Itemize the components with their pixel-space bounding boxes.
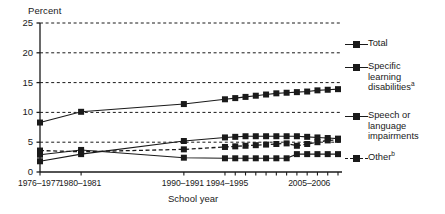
legend-footnote-marker: a	[411, 80, 415, 87]
series-marker-1	[232, 134, 238, 140]
series-marker-2	[181, 155, 187, 161]
y-tick-label: 0	[9, 166, 33, 177]
series-marker-0	[335, 86, 341, 92]
series-marker-3	[243, 143, 249, 149]
series-marker-2	[284, 155, 290, 161]
series-marker-1	[222, 134, 228, 140]
series-marker-1	[37, 158, 43, 164]
series-marker-3	[253, 142, 259, 148]
series-marker-1	[304, 134, 310, 140]
series-marker-1	[263, 133, 269, 139]
chart-figure: Percent 0510152025 1976–19771980–1981199…	[0, 0, 445, 214]
series-marker-1	[294, 133, 300, 139]
series-marker-0	[284, 90, 290, 96]
series-marker-2	[243, 155, 249, 161]
series-marker-0	[222, 96, 228, 102]
legend-item-3: Otherb	[345, 152, 395, 164]
legend-key-swatch	[345, 39, 368, 50]
series-marker-3	[304, 141, 310, 147]
series-marker-0	[253, 93, 259, 99]
series-marker-0	[181, 101, 187, 107]
x-tick-label: 1990–1991	[162, 178, 204, 188]
y-tick-label: 25	[9, 17, 33, 28]
series-marker-3	[181, 146, 187, 152]
series-marker-0	[243, 94, 249, 100]
legend-key-swatch	[345, 62, 368, 73]
series-marker-1	[181, 138, 187, 144]
series-marker-2	[335, 151, 341, 157]
series-marker-2	[253, 155, 259, 161]
x-axis-title: School year	[168, 193, 218, 204]
series-marker-3	[284, 140, 290, 146]
legend-item-label: Total	[368, 38, 388, 49]
y-axis-title: Percent	[28, 5, 61, 16]
legend-item-label: Speech or language impairments	[368, 110, 419, 142]
series-marker-2	[294, 151, 300, 157]
series-marker-3	[325, 137, 331, 143]
legend-key-marker	[353, 155, 360, 162]
series-marker-2	[273, 155, 279, 161]
series-marker-0	[314, 87, 320, 93]
series-marker-1	[253, 133, 259, 139]
y-tick-label: 20	[9, 47, 33, 58]
y-tick-label: 15	[9, 77, 33, 88]
series-marker-0	[273, 90, 279, 96]
series-marker-0	[294, 89, 300, 95]
series-marker-3	[263, 142, 269, 148]
series-marker-2	[304, 151, 310, 157]
series-marker-2	[263, 155, 269, 161]
series-marker-3	[273, 141, 279, 147]
series-marker-0	[304, 89, 310, 95]
series-marker-1	[243, 133, 249, 139]
series-marker-1	[284, 133, 290, 139]
series-marker-3	[294, 143, 300, 149]
legend-footnote-marker: b	[391, 150, 395, 157]
series-marker-3	[335, 137, 341, 143]
series-marker-2	[222, 155, 228, 161]
legend-key-marker	[353, 41, 360, 48]
series-marker-2	[325, 151, 331, 157]
legend-key-swatch	[345, 111, 368, 122]
series-marker-2	[314, 151, 320, 157]
legend-item-label: Specific learning disabilitiesa	[368, 61, 415, 93]
series-marker-0	[263, 92, 269, 98]
series-marker-3	[78, 149, 84, 155]
series-marker-2	[232, 155, 238, 161]
legend-key-marker	[353, 64, 360, 71]
legend-item-1: Specific learning disabilitiesa	[345, 61, 415, 93]
series-marker-0	[78, 109, 84, 115]
y-tick-label: 5	[9, 136, 33, 147]
x-tick-label: 2005–2006	[288, 178, 330, 188]
legend-item-0: Total	[345, 38, 388, 50]
series-marker-0	[325, 87, 331, 93]
x-tick-label: 1976–1977	[18, 178, 60, 188]
legend-key-swatch	[345, 153, 368, 164]
y-tick-label: 10	[9, 106, 33, 117]
series-marker-3	[222, 144, 228, 150]
x-tick-label: 1980–1981	[59, 178, 101, 188]
series-line-0	[40, 89, 338, 122]
legend-key-marker	[353, 113, 360, 120]
legend-item-2: Speech or language impairments	[345, 110, 419, 142]
series-marker-3	[37, 148, 43, 154]
series-marker-3	[232, 143, 238, 149]
series-marker-0	[37, 120, 43, 126]
x-tick-label: 1994–1995	[206, 178, 248, 188]
series-marker-3	[314, 139, 320, 145]
series-marker-0	[232, 95, 238, 101]
legend-item-label: Otherb	[368, 152, 395, 163]
series-marker-1	[273, 133, 279, 139]
